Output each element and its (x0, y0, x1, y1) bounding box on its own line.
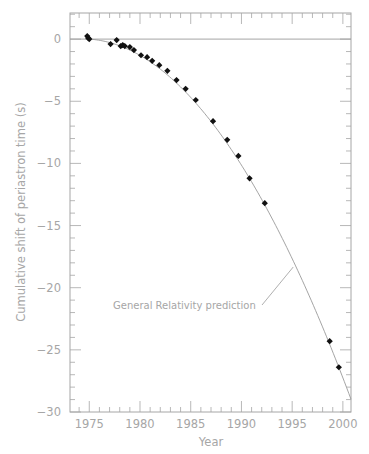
y-tick-label: −25 (37, 343, 61, 357)
data-points (84, 33, 342, 370)
data-point (156, 62, 162, 68)
axis-ticks (70, 13, 351, 412)
y-tick-label: 0 (54, 32, 61, 46)
y-tick-label: −20 (37, 281, 61, 295)
x-axis-label: Year (198, 435, 224, 449)
series-lines (70, 39, 351, 399)
data-point (173, 77, 179, 83)
x-tick-label: 1990 (227, 417, 256, 431)
y-tick-labels: 0−5−10−15−20−25−30 (37, 32, 61, 419)
data-point (235, 153, 241, 159)
y-axis-label: Cumulative shift of periastron time (s) (14, 102, 28, 321)
data-point (336, 364, 342, 370)
y-tick-label: −15 (37, 219, 61, 233)
plot-frame (70, 13, 351, 412)
chart: 197519801985199019952000 0−5−10−15−20−25… (0, 0, 369, 454)
x-tick-label: 1980 (125, 417, 154, 431)
y-tick-label: −30 (37, 405, 61, 419)
data-point (210, 118, 216, 124)
x-tick-label: 1975 (75, 417, 104, 431)
annotation-gr-prediction: General Relativity prediction (113, 300, 256, 311)
data-point (149, 58, 155, 64)
data-point (183, 86, 189, 92)
data-point (114, 37, 120, 43)
x-tick-label: 1995 (278, 417, 307, 431)
plot-border (70, 13, 351, 412)
gr-prediction-curve (85, 39, 351, 399)
y-tick-label: −5 (44, 94, 61, 108)
data-point (144, 54, 150, 60)
y-tick-label: −10 (37, 156, 61, 170)
x-tick-labels: 197519801985199019952000 (75, 417, 358, 431)
data-point (246, 175, 252, 181)
x-tick-label: 2000 (328, 417, 357, 431)
annotation-leader-line (262, 267, 293, 305)
x-tick-label: 1985 (176, 417, 205, 431)
data-point (224, 137, 230, 143)
data-point (193, 97, 199, 103)
